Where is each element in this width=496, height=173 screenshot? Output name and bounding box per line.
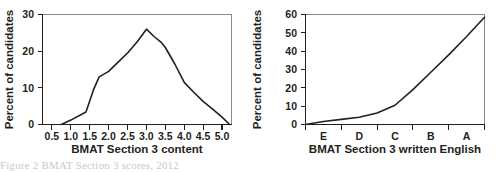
- data-line-section-3-content: [61, 29, 229, 124]
- data-line-section-3-written-english: [306, 17, 485, 124]
- x-tick-label: 1.5: [82, 130, 97, 142]
- y-axis-tick-labels-left: 0 10 20 30: [22, 8, 34, 130]
- x-tick-label: 4.5: [196, 130, 211, 142]
- y-axis-tick-labels-right: 0 10 20 30 40 50 60: [285, 8, 297, 130]
- x-axis-tick-labels-left: 0.5 1.0 1.5 2.0 2.5 3.0 3.5 4.0 4.5 5.0: [45, 130, 230, 142]
- y-tick-label: 20: [285, 82, 297, 94]
- y-tick-label: 30: [285, 63, 297, 75]
- chart-panel-section-3-written-english: 0 10 20 30 40 50 60 E D C B: [248, 0, 496, 155]
- y-tick-label: 0: [291, 118, 297, 130]
- x-tick-label: 0.5: [45, 130, 60, 142]
- x-tick-label: E: [320, 130, 327, 142]
- y-tick-label: 10: [22, 82, 34, 94]
- y-axis-title-right: Percent of candidates: [251, 10, 263, 130]
- y-axis-title-left: Percent of candidates: [3, 10, 15, 130]
- x-tick-label: 2.5: [120, 130, 135, 142]
- y-tick-label: 30: [22, 8, 34, 20]
- figure-container: 0 10 20 30 0.5 1.0: [0, 0, 496, 173]
- x-tick-label: D: [355, 130, 363, 142]
- y-tick-label: 50: [285, 27, 297, 39]
- x-axis-ticks-left: [52, 125, 222, 130]
- x-tick-label: 5.0: [215, 130, 230, 142]
- x-tick-label: 3.5: [158, 130, 173, 142]
- plot-frame-right: [306, 15, 485, 125]
- x-axis-title-right: BMAT Section 3 written English: [309, 143, 481, 155]
- x-tick-label: A: [463, 130, 471, 142]
- x-tick-label: 3.0: [139, 130, 154, 142]
- y-tick-label: 0: [28, 118, 34, 130]
- x-tick-label: 1.0: [63, 130, 78, 142]
- chart-panel-section-3-content: 0 10 20 30 0.5 1.0: [0, 0, 248, 155]
- y-tick-label: 40: [285, 45, 297, 57]
- chart-svg-right: 0 10 20 30 40 50 60 E D C B: [248, 0, 496, 155]
- y-axis-ticks-right: [301, 15, 306, 125]
- x-tick-label: 2.0: [101, 130, 116, 142]
- x-axis-ticks-right: [306, 125, 485, 130]
- x-tick-label: C: [391, 130, 399, 142]
- x-axis-title-left: BMAT Section 3 content: [71, 143, 203, 155]
- chart-svg-left: 0 10 20 30 0.5 1.0: [0, 0, 248, 155]
- y-axis-ticks-left: [38, 15, 43, 125]
- plot-frame-left: [43, 15, 232, 125]
- figure-caption: Figure 2 BMAT Section 3 scores, 2012: [0, 158, 496, 173]
- y-tick-label: 20: [22, 45, 34, 57]
- y-tick-label: 60: [285, 8, 297, 20]
- x-axis-tick-labels-right: E D C B A: [320, 130, 471, 142]
- y-tick-label: 10: [285, 100, 297, 112]
- x-tick-label: B: [427, 130, 435, 142]
- x-tick-label: 4.0: [177, 130, 192, 142]
